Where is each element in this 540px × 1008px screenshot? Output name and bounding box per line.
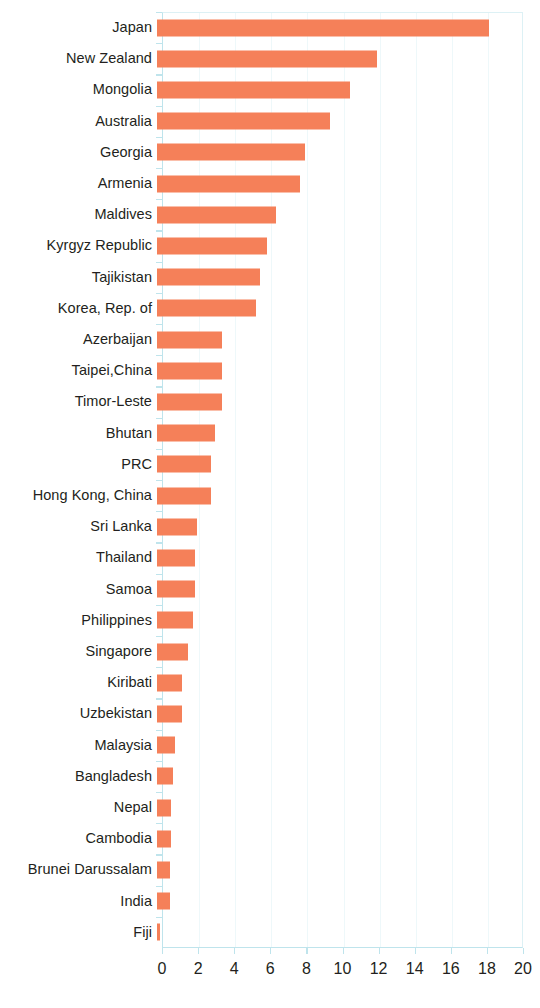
bar[interactable] [157, 331, 222, 348]
bar[interactable] [157, 50, 377, 67]
category-label: PRC [0, 457, 157, 472]
bar[interactable] [157, 737, 175, 754]
bar[interactable] [157, 612, 193, 629]
bar-row[interactable]: Korea, Rep. of [0, 293, 540, 324]
bar[interactable] [157, 113, 330, 130]
category-label: Fiji [0, 925, 157, 940]
x-tick-label: 12 [370, 960, 388, 978]
bar[interactable] [157, 674, 182, 691]
bar[interactable] [157, 549, 195, 566]
category-label: Sri Lanka [0, 519, 157, 534]
category-label: Brunei Darussalam [0, 862, 157, 877]
bar[interactable] [157, 924, 160, 941]
bar[interactable] [157, 81, 350, 98]
bar-row[interactable]: Armenia [0, 168, 540, 199]
x-tick-label: 6 [266, 960, 275, 978]
bar-row[interactable]: Taipei,China [0, 355, 540, 386]
category-tick [156, 12, 162, 13]
bar-row[interactable]: Fiji [0, 917, 540, 948]
bar[interactable] [157, 830, 171, 847]
bar[interactable] [157, 269, 260, 286]
bar-row[interactable]: Hong Kong, China [0, 480, 540, 511]
bar[interactable] [157, 487, 211, 504]
category-label: Kiribati [0, 675, 157, 690]
bar[interactable] [157, 768, 173, 785]
bar-row[interactable]: Brunei Darussalam [0, 854, 540, 885]
bar-row[interactable]: Maldives [0, 199, 540, 230]
category-label: Cambodia [0, 831, 157, 846]
bar-row[interactable]: Mongolia [0, 74, 540, 105]
bar-row[interactable]: Sri Lanka [0, 511, 540, 542]
category-label: Japan [0, 20, 157, 35]
category-label: Armenia [0, 176, 157, 191]
bar-track [157, 542, 540, 573]
category-label: Mongolia [0, 82, 157, 97]
bar[interactable] [157, 393, 222, 410]
x-tick-label: 14 [406, 960, 424, 978]
bar-row[interactable]: India [0, 886, 540, 917]
bar[interactable] [157, 799, 171, 816]
category-label: Australia [0, 114, 157, 129]
bar-row[interactable]: Cambodia [0, 823, 540, 854]
bar[interactable] [157, 861, 170, 878]
category-tick [156, 262, 162, 263]
bar-row[interactable]: Nepal [0, 792, 540, 823]
bar-row[interactable]: Japan [0, 12, 540, 43]
bar[interactable] [157, 425, 215, 442]
bar-row[interactable]: Kyrgyz Republic [0, 230, 540, 261]
bar[interactable] [157, 175, 300, 192]
category-tick [156, 230, 162, 231]
bar[interactable] [157, 144, 305, 161]
bar-row[interactable]: Australia [0, 106, 540, 137]
category-tick [156, 324, 162, 325]
bar-row[interactable]: Malaysia [0, 730, 540, 761]
bar-track [157, 886, 540, 917]
bar[interactable] [157, 237, 267, 254]
bar[interactable] [157, 893, 170, 910]
category-tick [156, 449, 162, 450]
bar-track [157, 730, 540, 761]
bar-track [157, 761, 540, 792]
bar-track [157, 12, 540, 43]
bar-track [157, 605, 540, 636]
bar-row[interactable]: Bhutan [0, 418, 540, 449]
bar-track [157, 293, 540, 324]
bar-row[interactable]: New Zealand [0, 43, 540, 74]
x-tick-label: 20 [514, 960, 532, 978]
bar[interactable] [157, 19, 489, 36]
bar-track [157, 168, 540, 199]
category-tick [156, 480, 162, 481]
x-tick-mark [343, 948, 344, 954]
bar-row[interactable]: Singapore [0, 636, 540, 667]
x-tick-mark [234, 948, 235, 954]
bar-row[interactable]: Azerbaijan [0, 324, 540, 355]
bar-track [157, 137, 540, 168]
bar-row[interactable]: Bangladesh [0, 761, 540, 792]
bar-track [157, 262, 540, 293]
x-tick-mark [487, 948, 488, 954]
bar-row[interactable]: Samoa [0, 574, 540, 605]
bar[interactable] [157, 362, 222, 379]
bar-row[interactable]: Tajikistan [0, 262, 540, 293]
bar-row[interactable]: Georgia [0, 137, 540, 168]
category-label: Philippines [0, 613, 157, 628]
bar-row[interactable]: PRC [0, 449, 540, 480]
bar-row[interactable]: Philippines [0, 605, 540, 636]
bar-row[interactable]: Thailand [0, 542, 540, 573]
bar-row[interactable]: Kiribati [0, 667, 540, 698]
bar[interactable] [157, 206, 276, 223]
category-label: India [0, 894, 157, 909]
bar-track [157, 917, 540, 948]
bar[interactable] [157, 643, 188, 660]
bar[interactable] [157, 581, 195, 598]
bar[interactable] [157, 300, 256, 317]
bar-row[interactable]: Timor-Leste [0, 386, 540, 417]
category-tick [156, 636, 162, 637]
bar[interactable] [157, 705, 182, 722]
category-tick [156, 698, 162, 699]
bar[interactable] [157, 456, 211, 473]
bar[interactable] [157, 518, 197, 535]
category-tick [156, 511, 162, 512]
bar-track [157, 667, 540, 698]
bar-row[interactable]: Uzbekistan [0, 698, 540, 729]
